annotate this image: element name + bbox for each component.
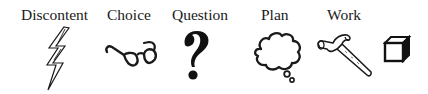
stage-label-question: Question — [172, 6, 228, 24]
lightning-bolt-icon — [44, 26, 74, 92]
eyeglasses-icon — [104, 38, 160, 70]
stage-label-choice: Choice — [107, 6, 151, 24]
question-mark-icon — [181, 29, 211, 81]
hammer-icon — [315, 31, 375, 81]
thought-cloud-icon — [249, 29, 305, 89]
cube-icon — [383, 35, 411, 63]
stage-label-plan: Plan — [261, 6, 289, 24]
stage-label-work: Work — [327, 6, 361, 24]
stage-label-discontent: Discontent — [21, 6, 88, 24]
